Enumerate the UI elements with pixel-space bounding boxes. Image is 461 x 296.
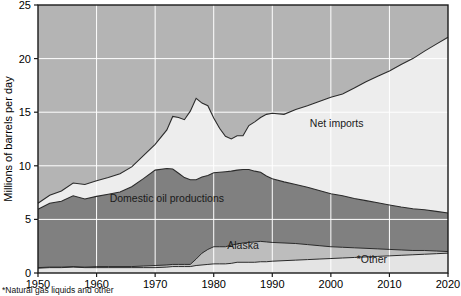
x-axis-tick-label: 1990 <box>260 278 284 290</box>
y-axis-tick-label: 15 <box>19 106 31 118</box>
series-annotation-label: Net imports <box>310 117 364 129</box>
y-axis-tick-label: 25 <box>19 0 31 11</box>
x-axis-tick-label: 2000 <box>319 278 343 290</box>
footnote: *Natural gas liquids and other <box>2 285 114 295</box>
y-axis-tick-label: 10 <box>19 160 31 172</box>
series-annotation-label: Domestic oil productions <box>110 192 224 204</box>
oil-supply-stacked-area-chart: 0510152025 19501960197019801990200020102… <box>0 0 461 296</box>
y-axis: 0510152025 <box>19 0 38 279</box>
x-axis-tick-label: 2010 <box>377 278 401 290</box>
y-axis-tick-label: 20 <box>19 53 31 65</box>
series-annotation-label: Alaska <box>227 239 259 251</box>
y-axis-title: Millions of barrels per day <box>2 76 14 202</box>
series-annotation-label: *Other <box>357 253 388 265</box>
x-axis-tick-label: 1980 <box>201 278 225 290</box>
x-axis-tick-label: 1970 <box>143 278 167 290</box>
y-axis-tick-label: 5 <box>25 213 31 225</box>
x-axis-tick-label: 2020 <box>436 278 460 290</box>
chart-figure: 0510152025 19501960197019801990200020102… <box>0 0 461 296</box>
